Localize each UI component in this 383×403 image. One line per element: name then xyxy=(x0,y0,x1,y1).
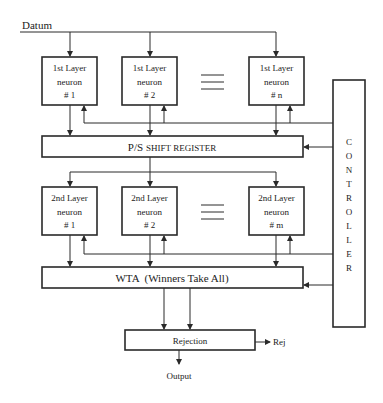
svg-text:neuron: neuron xyxy=(264,207,289,217)
controller-letter: L xyxy=(346,221,352,231)
svg-text:neuron: neuron xyxy=(137,77,162,87)
controller-letter: R xyxy=(346,193,352,203)
svg-text:1st Layer: 1st Layer xyxy=(133,63,167,73)
ps-shift-register: P/SSHIFT REGISTER xyxy=(42,136,303,157)
controller-letter: E xyxy=(346,249,352,259)
controller-letter: T xyxy=(346,179,352,189)
svg-text:2nd Layer: 2nd Layer xyxy=(258,193,295,203)
layer2-ellipsis-lines xyxy=(201,205,224,219)
output-label: Output xyxy=(166,371,192,381)
controller-letter: R xyxy=(346,263,352,273)
svg-text:# 2: # 2 xyxy=(144,90,155,100)
controller-letter: C xyxy=(346,137,352,147)
svg-text:P/SSHIFT REGISTER: P/SSHIFT REGISTER xyxy=(128,141,216,153)
rejection-block: Rejection xyxy=(125,330,255,350)
layer2-neuron-2: 2nd Layer neuron # 2 xyxy=(122,187,177,235)
layer1-neuron-n: 1st Layer neuron # n xyxy=(249,57,304,105)
svg-text:# n: # n xyxy=(271,90,283,100)
svg-text:2nd Layer: 2nd Layer xyxy=(51,193,88,203)
shift-register-label: SHIFT REGISTER xyxy=(146,143,216,153)
controller-letter: O xyxy=(346,207,353,217)
layer1-neuron-1: 1st Layer neuron # 1 xyxy=(42,57,97,105)
svg-text:neuron: neuron xyxy=(57,77,82,87)
controller-letter: N xyxy=(346,165,353,175)
layer1-neuron-2: 1st Layer neuron # 2 xyxy=(122,57,177,105)
neural-network-block-diagram: Datum 1st Layer neuron # 1 1st Layer neu… xyxy=(0,0,383,403)
wta-label: WTA (Winners Take All) xyxy=(115,272,229,285)
controller-letter: L xyxy=(346,235,352,245)
wta-block: WTA (Winners Take All) xyxy=(42,267,303,288)
svg-text:neuron: neuron xyxy=(264,77,289,87)
svg-text:# m: # m xyxy=(270,220,284,230)
layer2-neuron-1: 2nd Layer neuron # 1 xyxy=(42,187,97,235)
rejection-label: Rejection xyxy=(173,336,208,346)
svg-text:2nd Layer: 2nd Layer xyxy=(131,193,168,203)
datum-label: Datum xyxy=(22,19,52,31)
svg-text:# 2: # 2 xyxy=(144,220,155,230)
layer2-neuron-m: 2nd Layer neuron # m xyxy=(249,187,304,235)
svg-text:neuron: neuron xyxy=(57,207,82,217)
svg-text:neuron: neuron xyxy=(137,207,162,217)
rej-label: Rej xyxy=(273,337,286,347)
controller-block: C O N T R O L L E R xyxy=(333,80,365,327)
svg-text:1st Layer: 1st Layer xyxy=(260,63,294,73)
shift-register-prefix: P/S xyxy=(128,141,143,153)
svg-text:# 1: # 1 xyxy=(64,90,75,100)
svg-text:1st Layer: 1st Layer xyxy=(53,63,87,73)
layer1-ellipsis-lines xyxy=(201,75,224,89)
controller-letter: O xyxy=(346,151,353,161)
svg-text:# 1: # 1 xyxy=(64,220,75,230)
